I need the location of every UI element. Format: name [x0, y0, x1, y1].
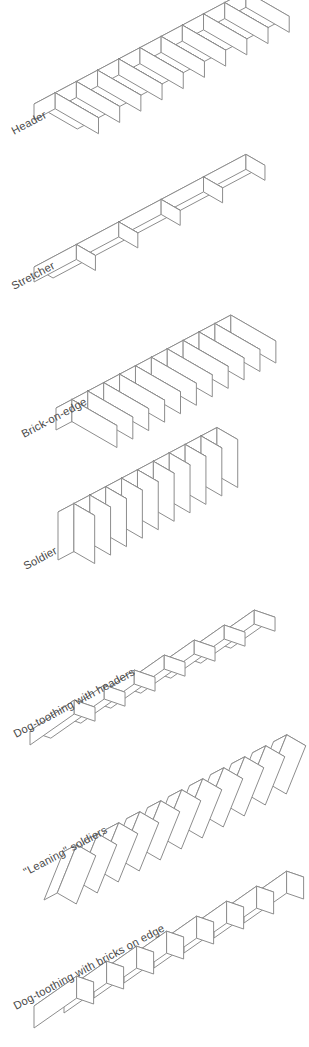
figure-header: Header [0, 0, 309, 190]
figure-dog-toothing-with-bricks-on-edge: Dog-toothing with bricks on edge [0, 950, 309, 1047]
brick [58, 504, 95, 564]
header-drawing: Header [0, 0, 309, 190]
figure-soldier: Soldier [0, 500, 309, 650]
dog-toothing-bricks-on-edge-drawing: Dog-toothing with bricks on edge [0, 950, 309, 1047]
figure-stretcher: Stretcher [0, 190, 309, 350]
soldier-drawing: Soldier [0, 500, 309, 650]
header-bricks [34, 0, 289, 134]
figure-label: Header [9, 108, 48, 136]
brick-course-diagram-sheet: Header Stretcher Brick-on-edge Soldier D… [0, 0, 309, 1047]
stretcher-drawing: Stretcher [0, 190, 309, 350]
figure-label: Soldier [21, 544, 59, 572]
